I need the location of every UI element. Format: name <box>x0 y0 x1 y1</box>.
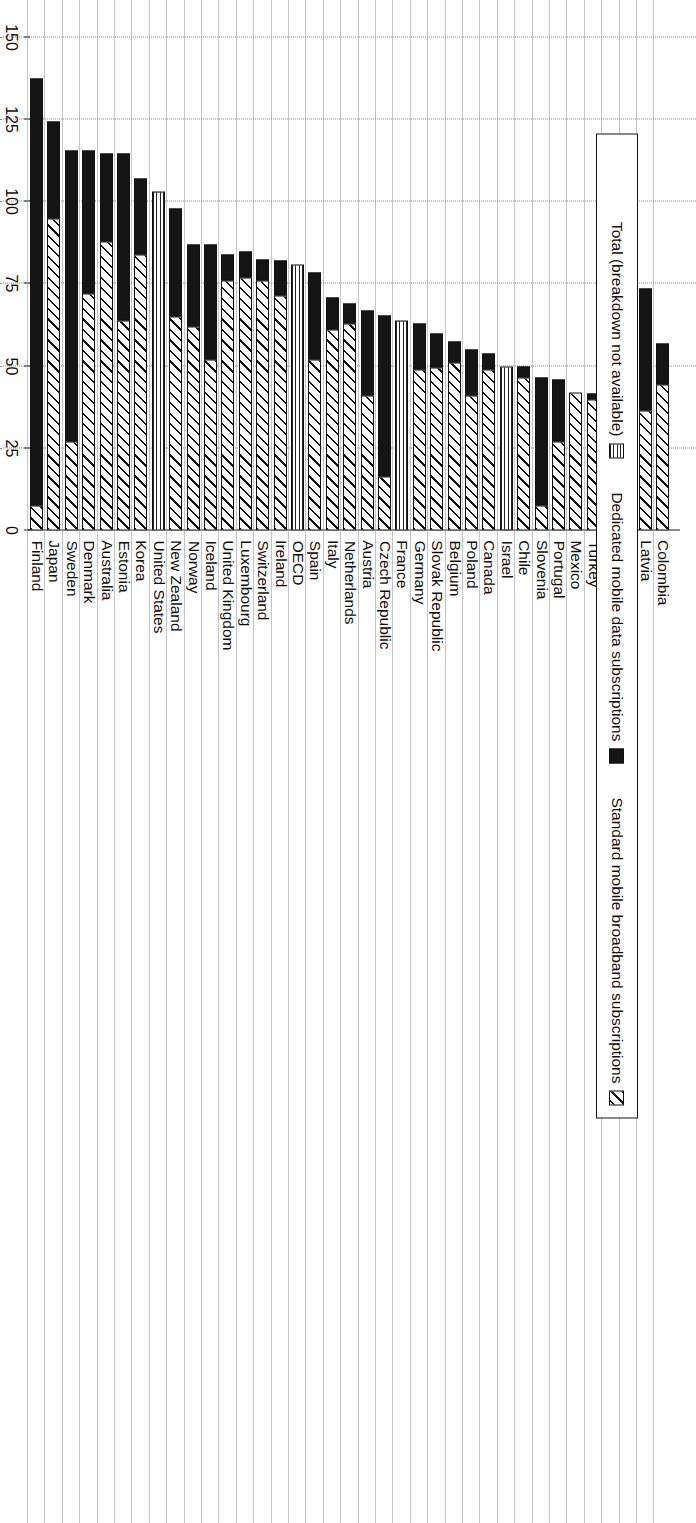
bar-segment-dedicated <box>343 303 356 323</box>
legend-swatch-diagonal-hatch-icon <box>610 1090 625 1105</box>
category-gridline <box>358 0 359 1523</box>
bar-segment-dedicated <box>552 379 565 441</box>
category-label: Ireland <box>272 540 290 587</box>
category-gridline <box>271 0 272 1523</box>
category-gridline <box>288 0 289 1523</box>
bar-segment-standard <box>239 277 252 530</box>
bar-segment-dedicated <box>117 153 130 320</box>
bar-segment-standard <box>535 505 548 530</box>
category-gridline <box>218 0 219 1523</box>
category-label: Australia <box>98 540 116 600</box>
bar-segment-standard <box>221 280 234 530</box>
bar-segment-standard <box>413 369 426 530</box>
category-label: Sweden <box>63 540 81 596</box>
category-label: Israel <box>498 540 516 578</box>
category-gridline <box>427 0 428 1523</box>
bar-segment-dedicated <box>274 260 287 295</box>
category-label: France <box>393 540 411 588</box>
legend-label: Total (breakdown not available) <box>608 221 626 436</box>
legend-label: Standard mobile broadband subscriptions <box>608 797 626 1083</box>
bar-segment-standard <box>552 441 565 530</box>
legend-item: Dedicated mobile data subscriptions <box>608 492 626 763</box>
category-label: Slovak Republic <box>428 540 446 651</box>
category-gridline <box>184 0 185 1523</box>
axis-tick-label: 100 <box>2 181 20 221</box>
category-label: Norway <box>185 540 203 593</box>
bar-segment-dedicated <box>326 297 339 330</box>
bar-segment-dedicated <box>187 244 200 326</box>
bar-segment-dedicated <box>378 315 391 476</box>
bar-segment-standard <box>326 330 339 531</box>
bar-segment-dedicated <box>535 377 548 505</box>
bar-segment-standard <box>569 392 582 530</box>
category-label: Switzerland <box>254 540 272 620</box>
category-gridline <box>62 0 63 1523</box>
category-label: United Kingdom <box>219 540 237 650</box>
legend-swatch-solid-black-icon <box>610 748 625 763</box>
category-gridline <box>566 0 567 1523</box>
category-gridline <box>392 0 393 1523</box>
category-gridline <box>114 0 115 1523</box>
bar-segment-standard <box>134 254 147 530</box>
bar-segment-standard <box>343 323 356 530</box>
bar-segment-dedicated <box>256 259 269 280</box>
category-gridline <box>236 0 237 1523</box>
category-label: OECD <box>289 540 307 585</box>
chart-rotated-container: 0255075100125150FinlandJapanSwedenDenmar… <box>0 0 696 1523</box>
legend-swatch-fine-grid-icon <box>610 443 625 458</box>
category-label: United States <box>150 540 168 633</box>
chart-figure: 0255075100125150FinlandJapanSwedenDenmar… <box>0 0 696 1523</box>
category-gridline <box>514 0 515 1523</box>
category-gridline <box>549 0 550 1523</box>
category-gridline <box>462 0 463 1523</box>
category-label: Mexico <box>567 540 585 589</box>
bar-segment-total-only <box>500 366 513 530</box>
category-label: Germany <box>411 540 429 604</box>
bar-segment-dedicated <box>413 323 426 369</box>
bar-segment-total-only <box>395 320 408 530</box>
bar-segment-dedicated <box>308 272 321 359</box>
bar-segment-standard <box>465 395 478 530</box>
category-label: Austria <box>359 540 377 588</box>
bar-segment-dedicated <box>482 353 495 369</box>
chart-legend: Standard mobile broadband subscriptionsD… <box>596 133 638 1118</box>
bar-segment-standard <box>100 241 113 530</box>
bar-segment-standard <box>482 369 495 530</box>
bar-segment-standard <box>30 505 43 530</box>
value-gridline <box>0 118 696 119</box>
bar-segment-standard <box>639 410 652 530</box>
axis-tick-label: 125 <box>2 99 20 139</box>
category-gridline <box>479 0 480 1523</box>
bar-segment-standard <box>448 362 461 530</box>
category-gridline <box>410 0 411 1523</box>
bar-segment-standard <box>308 359 321 530</box>
bar-segment-standard <box>187 326 200 530</box>
category-gridline <box>653 0 654 1523</box>
category-label: Estonia <box>115 540 133 592</box>
axis-tick-label: 50 <box>2 346 20 386</box>
category-label: Slovenia <box>533 540 551 599</box>
bar-segment-standard <box>274 295 287 530</box>
category-label: Japan <box>45 540 63 582</box>
bar-segment-standard <box>169 316 182 530</box>
bar-segment-dedicated <box>30 78 43 505</box>
category-label: Colombia <box>654 540 672 605</box>
bar-segment-dedicated <box>361 310 374 395</box>
bar-segment-standard <box>378 476 391 530</box>
bar-segment-standard <box>430 367 443 530</box>
bar-segment-standard <box>204 359 217 530</box>
category-label: Poland <box>463 540 481 588</box>
bar-segment-standard <box>47 218 60 530</box>
category-label: Denmark <box>80 540 98 603</box>
category-gridline <box>340 0 341 1523</box>
axis-tick-label: 75 <box>2 263 20 303</box>
bar-segment-dedicated <box>517 366 530 378</box>
value-gridline <box>0 36 696 37</box>
bar-segment-dedicated <box>82 150 95 293</box>
category-gridline <box>305 0 306 1523</box>
category-gridline <box>201 0 202 1523</box>
category-gridline <box>497 0 498 1523</box>
bar-segment-dedicated <box>204 244 217 359</box>
category-label: Belgium <box>446 540 464 596</box>
bar-segment-standard <box>517 377 530 530</box>
